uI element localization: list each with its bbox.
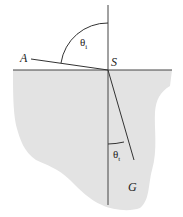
incident-angle-label: θi [80,36,87,51]
lower-medium-region [13,70,172,210]
point-a-label: A [19,51,28,65]
point-g-label: G [128,180,137,194]
point-s-label: S [111,55,117,69]
diagram-canvas: A S G θi θt [0,0,183,217]
incident-ray [31,59,108,70]
refraction-diagram: A S G θi θt [0,0,183,217]
